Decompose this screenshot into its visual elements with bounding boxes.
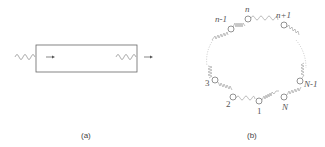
panel-a-diagram bbox=[15, 45, 153, 72]
node-n-plus-1 bbox=[281, 22, 287, 28]
arrow-in-head bbox=[52, 56, 55, 59]
spring-right-upper bbox=[287, 25, 299, 35]
label-n-minus-1: n-1 bbox=[215, 15, 227, 24]
panel-b-ring bbox=[207, 16, 306, 104]
label-N: N bbox=[282, 103, 288, 112]
caption-a: (a) bbox=[81, 131, 91, 140]
node-N-minus-1 bbox=[297, 78, 303, 84]
spring-1-N bbox=[262, 91, 279, 100]
wave-in bbox=[15, 55, 35, 60]
node-1 bbox=[256, 98, 262, 104]
spring-left-lower bbox=[208, 66, 212, 78]
wave-out bbox=[116, 55, 136, 60]
node-n-minus-1 bbox=[228, 26, 234, 32]
caption-b: (b) bbox=[247, 131, 257, 140]
spring-left-upper bbox=[212, 32, 228, 40]
dotted-arc-right bbox=[296, 40, 306, 68]
spring-3-2 bbox=[218, 82, 232, 90]
dotted-arc-left bbox=[207, 40, 213, 66]
spring-n1-n bbox=[233, 23, 245, 27]
arrow-out-head bbox=[150, 56, 153, 59]
spring-right-lower bbox=[301, 63, 304, 78]
spring-n-n1 bbox=[251, 16, 278, 20]
node-3 bbox=[212, 77, 218, 83]
box bbox=[36, 45, 137, 72]
figure-canvas bbox=[0, 0, 325, 147]
label-N-minus-1: N-1 bbox=[304, 80, 318, 89]
label-n: n bbox=[245, 5, 250, 14]
label-2: 2 bbox=[226, 100, 231, 109]
spring-N-N1 bbox=[287, 87, 301, 95]
label-n-plus-1: n+1 bbox=[276, 11, 291, 20]
spring-2-1 bbox=[236, 96, 255, 100]
node-n bbox=[245, 16, 251, 22]
label-1: 1 bbox=[257, 107, 262, 116]
node-N bbox=[281, 94, 287, 100]
node-2 bbox=[230, 94, 236, 100]
label-3: 3 bbox=[205, 79, 210, 88]
